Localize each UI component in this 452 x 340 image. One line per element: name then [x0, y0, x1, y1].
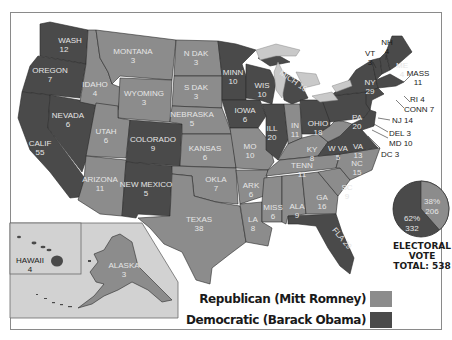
svg-text:ILL20: ILL20 — [266, 124, 278, 142]
caption-line2: VOTE — [392, 251, 452, 261]
svg-text:RI 4: RI 4 — [410, 95, 425, 104]
hawaii-name: HAWAII — [14, 256, 46, 265]
electoral-pie-chart — [393, 181, 449, 237]
svg-text:NC15: NC15 — [351, 159, 363, 177]
legend-item-republican: Republican (Mitt Romney) — [186, 288, 392, 309]
legend: Republican (Mitt Romney) Democratic (Bar… — [186, 288, 392, 330]
electoral-vote-caption: ELECTORAL VOTE TOTAL: 538 — [392, 241, 452, 271]
state-oregon[interactable] — [22, 56, 86, 98]
legend-swatch-democratic — [370, 312, 392, 328]
svg-text:DEL 3: DEL 3 — [389, 129, 411, 138]
svg-text:38%206: 38%206 — [424, 197, 440, 216]
svg-text:MASS11: MASS11 — [407, 69, 430, 87]
hawaii-ev: 4 — [14, 265, 46, 274]
svg-text:62%332: 62%332 — [404, 214, 420, 233]
legend-label-republican: Republican (Mitt Romney) — [199, 292, 366, 306]
hawaii-label: HAWAII 4 — [14, 256, 46, 274]
svg-text:MD 10: MD 10 — [389, 139, 413, 148]
caption-line3: TOTAL: 538 — [392, 261, 452, 271]
svg-text:NY29: NY29 — [364, 78, 376, 96]
svg-text:VA13: VA13 — [353, 142, 364, 160]
svg-text:DC 3: DC 3 — [381, 150, 400, 159]
svg-text:CONN 7: CONN 7 — [404, 105, 435, 114]
legend-label-democratic: Democratic (Barack Obama) — [186, 313, 366, 327]
legend-item-democratic: Democratic (Barack Obama) — [186, 309, 392, 330]
caption-line1: ELECTORAL — [392, 241, 452, 251]
svg-text:NJ 14: NJ 14 — [392, 116, 413, 125]
svg-text:PA20: PA20 — [352, 113, 363, 131]
legend-swatch-republican — [370, 291, 392, 307]
svg-text:IN11: IN11 — [291, 121, 300, 139]
svg-text:SC9: SC9 — [341, 183, 352, 201]
